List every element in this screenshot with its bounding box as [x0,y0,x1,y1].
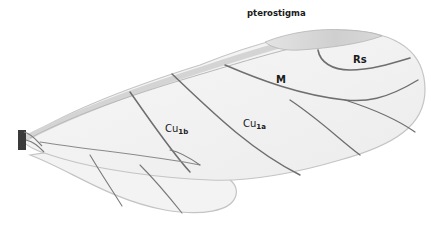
label-cu1a-base: Cu [243,118,256,129]
label-m: M [276,75,286,85]
forewing [22,30,425,180]
label-pterostigma: pterostigma [247,9,306,18]
label-cu1a-sub: 1a [256,123,266,131]
wing-illustration [0,0,431,230]
label-cu1a: Cu1a [243,119,266,131]
label-cu1b: Cu1b [165,124,188,136]
label-cu1b-sub: 1b [178,128,188,136]
label-cu1b-base: Cu [165,123,178,134]
label-rs: Rs [353,55,367,65]
wing-figure: pterostigma Rs M Cu1b Cu1a [0,0,431,230]
